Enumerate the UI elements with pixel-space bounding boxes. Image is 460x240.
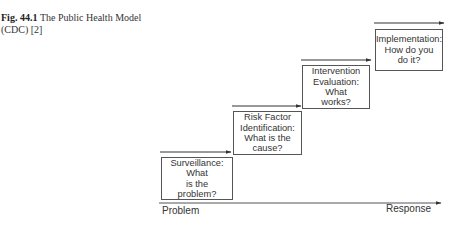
step-box-intervention: Intervention Evaluation: What works? bbox=[302, 65, 370, 109]
axis-label-response: Response bbox=[386, 203, 431, 214]
step-box-implementation: Implementation: How do you do it? bbox=[375, 29, 443, 71]
step-box-risk-factor: Risk Factor Identification: What is the … bbox=[233, 111, 302, 155]
step-box-surveillance: Surveillance: What is the problem? bbox=[161, 157, 233, 200]
axis-label-problem: Problem bbox=[162, 205, 199, 216]
